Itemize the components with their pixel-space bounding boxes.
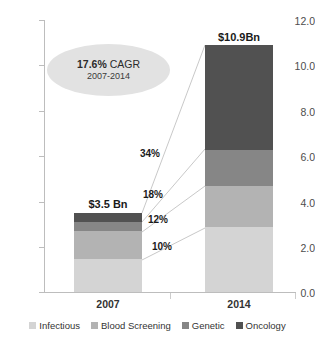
bar-2014-segment-oncology[interactable]: [205, 45, 273, 149]
x-label-2014: 2014: [195, 298, 283, 310]
bar-total-label-2014: $10.9Bn: [191, 31, 287, 43]
legend-swatch-icon-blood-screening: [91, 322, 98, 329]
legend-item-oncology[interactable]: Oncology: [236, 320, 286, 331]
legend-label-infectious: Infectious: [39, 320, 80, 331]
growth-pct-blood-screening: 12%: [148, 214, 168, 225]
bar-2014-segment-genetic[interactable]: [205, 150, 273, 186]
bar-2007-segment-infectious[interactable]: [74, 259, 142, 292]
chart-legend: Infectious Blood Screening Genetic Oncol…: [0, 320, 315, 331]
x-label-2007: 2007: [64, 298, 152, 310]
cagr-value-metric: 17.6% CAGR: [77, 58, 140, 70]
legend-label-blood-screening: Blood Screening: [101, 320, 171, 331]
legend-swatch-icon-oncology: [236, 322, 243, 329]
legend-item-infectious[interactable]: Infectious: [29, 320, 80, 331]
bar-2014-segment-infectious[interactable]: [205, 227, 273, 292]
growth-pct-oncology: 34%: [140, 148, 160, 159]
x-axis-end-separator: [295, 293, 296, 299]
cagr-period: 2007-2014: [87, 71, 130, 81]
legend-swatch-icon-genetic: [182, 322, 189, 329]
legend-item-genetic[interactable]: Genetic: [182, 320, 225, 331]
legend-item-blood-screening[interactable]: Blood Screening: [91, 320, 171, 331]
growth-pct-infectious: 10%: [152, 241, 172, 252]
growth-pct-genetic: 18%: [143, 189, 163, 200]
cagr-metric-label: CAGR: [110, 58, 140, 70]
bar-2007-segment-oncology[interactable]: [74, 213, 142, 222]
legend-label-oncology: Oncology: [246, 320, 286, 331]
x-axis-tick-separator: [170, 293, 171, 299]
cagr-callout: 17.6% CAGR 2007-2014: [47, 44, 170, 96]
bar-2007-segment-genetic[interactable]: [74, 222, 142, 231]
bar-2007-segment-blood-screening[interactable]: [74, 231, 142, 259]
y-tick-mark-0: [39, 292, 44, 293]
bar-2014-segment-blood-screening[interactable]: [205, 186, 273, 228]
legend-swatch-icon-infectious: [29, 322, 36, 329]
legend-label-genetic: Genetic: [192, 320, 225, 331]
bar-2014[interactable]: [205, 20, 273, 292]
stacked-bar-chart: 12.0 10.0 8.0 6.0 4.0 2.0 0.0: [0, 0, 315, 345]
cagr-value: 17.6%: [77, 58, 107, 70]
bar-total-label-2007: $3.5 Bn: [60, 198, 156, 210]
